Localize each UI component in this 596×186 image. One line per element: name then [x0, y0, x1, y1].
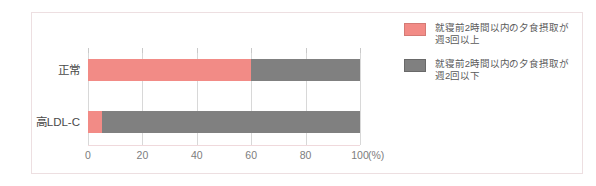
chart-figure: 正常 高LDL-C 020406080100 (%) 就寝前2時間以内の夕食摂取… — [0, 0, 596, 186]
x-axis-tick-label: 20 — [137, 149, 149, 161]
plot-area: 正常 高LDL-C — [88, 52, 360, 145]
bar-segment-series-b — [102, 111, 360, 133]
x-axis-unit-label: (%) — [368, 149, 384, 161]
x-axis-tick-label: 80 — [300, 149, 312, 161]
bar-row: 正常 — [88, 59, 360, 81]
legend-item-series-a[interactable]: 就寝前2時間以内の夕食摂取が 週3回以上 — [404, 22, 569, 46]
category-label-0: 正常 — [58, 59, 80, 81]
bar-segment-series-b — [251, 59, 360, 81]
x-axis-tick-label: 100 — [351, 149, 369, 161]
x-axis-tick-label: 40 — [191, 149, 203, 161]
category-label-1: 高LDL-C — [36, 111, 80, 133]
x-axis-line — [88, 145, 360, 146]
legend-label: 就寝前2時間以内の夕食摂取が 週2回以下 — [435, 58, 569, 82]
bar-segment-series-a — [88, 111, 102, 133]
x-axis-tick-label: 60 — [245, 149, 257, 161]
bar-row: 高LDL-C — [88, 111, 360, 133]
legend-item-series-b[interactable]: 就寝前2時間以内の夕食摂取が 週2回以下 — [404, 58, 569, 82]
x-axis-tick-label: 0 — [85, 149, 91, 161]
bar-segment-series-a — [88, 59, 251, 81]
legend-swatch-icon — [404, 59, 426, 72]
legend-label: 就寝前2時間以内の夕食摂取が 週3回以上 — [435, 22, 569, 46]
legend-swatch-icon — [404, 23, 426, 36]
chart-legend: 就寝前2時間以内の夕食摂取が 週3回以上 就寝前2時間以内の夕食摂取が 週2回以… — [404, 22, 569, 82]
